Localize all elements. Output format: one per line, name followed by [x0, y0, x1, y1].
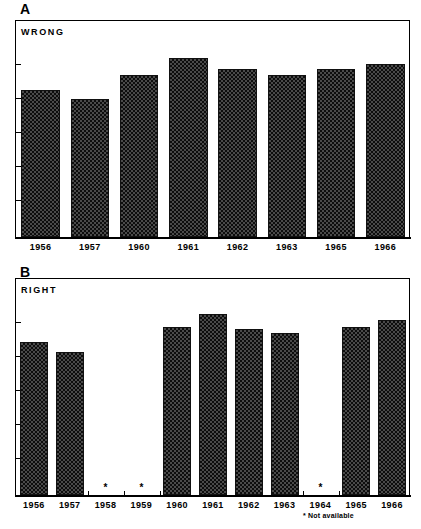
xlabel: 1962	[213, 242, 262, 252]
bar-slot	[164, 21, 213, 237]
bar-a-0	[21, 90, 59, 237]
bar-slot	[231, 279, 267, 495]
bar-slot	[52, 279, 88, 495]
xlabel: 1965	[312, 242, 361, 252]
star-cell	[267, 483, 303, 493]
bar-slot	[374, 279, 410, 495]
bar-slot	[338, 279, 374, 495]
xlabel: 1961	[164, 242, 213, 252]
xlabel: 1962	[231, 500, 267, 510]
panel-b: B RIGHT * * *	[0, 265, 421, 529]
bar-slot	[159, 279, 195, 495]
xlabel: 1960	[159, 500, 195, 510]
xlabel: 1957	[52, 500, 88, 510]
panel-a-xaxis-labels: 1956 1957 1960 1961 1962 1963 1965 1966	[16, 242, 410, 252]
bar-b-1	[56, 352, 84, 495]
bar-slot	[262, 21, 311, 237]
bar-b-9	[342, 327, 370, 495]
bar-b-0	[20, 342, 48, 495]
bar-slot	[123, 279, 159, 495]
bar-slot	[16, 21, 65, 237]
xlabel: 1963	[267, 500, 303, 510]
xlabel: 1960	[115, 242, 164, 252]
bar-slot	[88, 279, 124, 495]
bar-slot	[267, 279, 303, 495]
bar-slot	[115, 21, 164, 237]
bar-b-5	[199, 314, 227, 495]
xlabel: 1966	[361, 242, 410, 252]
panel-b-footnote: * Not available	[303, 512, 354, 519]
star-cell	[338, 483, 374, 493]
bar-b-10	[378, 320, 406, 495]
xlabel: 1958	[88, 500, 124, 510]
bar-slot	[213, 21, 262, 237]
bar-slot	[16, 279, 52, 495]
panel-b-missing-markers: * * *	[16, 483, 410, 493]
star-cell	[231, 483, 267, 493]
panel-b-baseline	[15, 495, 411, 497]
xlabel: 1966	[374, 500, 410, 510]
panel-b-xaxis-labels: 1956 1957 1958 1959 1960 1961 1962 1963 …	[16, 500, 410, 510]
xlabel: 1965	[338, 500, 374, 510]
panel-a-baseline	[15, 237, 411, 239]
bar-slot	[312, 21, 361, 237]
panel-a-letter: A	[20, 2, 30, 16]
panel-b-bars	[16, 279, 410, 495]
star-cell	[52, 483, 88, 493]
star-cell	[159, 483, 195, 493]
panel-b-letter: B	[20, 265, 30, 279]
xlabel: 1956	[16, 242, 65, 252]
panel-a-bars	[16, 21, 410, 237]
xlabel: 1957	[65, 242, 114, 252]
bar-slot	[303, 279, 339, 495]
xlabel: 1959	[123, 500, 159, 510]
bar-b-4	[163, 327, 191, 495]
star-marker-1964: *	[303, 483, 339, 493]
star-cell	[195, 483, 231, 493]
bar-a-4	[218, 69, 256, 237]
bar-a-2	[120, 75, 158, 237]
xlabel: 1961	[195, 500, 231, 510]
bar-slot	[195, 279, 231, 495]
star-marker-1958: *	[88, 483, 124, 493]
xlabel: 1956	[16, 500, 52, 510]
panel-a: A WRONG 1956 1957 1960 1961 1962 1963 19…	[0, 0, 421, 265]
star-cell	[16, 483, 52, 493]
bar-b-6	[235, 329, 263, 495]
star-marker-1959: *	[123, 483, 159, 493]
xlabel: 1963	[262, 242, 311, 252]
bar-a-6	[317, 69, 355, 237]
bar-b-7	[271, 333, 299, 495]
bar-slot	[361, 21, 410, 237]
xlabel: 1964	[303, 500, 339, 510]
bar-a-3	[169, 58, 207, 237]
bar-slot	[65, 21, 114, 237]
bar-a-7	[366, 64, 404, 237]
bar-a-1	[71, 99, 109, 237]
star-cell	[374, 483, 410, 493]
bar-a-5	[268, 75, 306, 237]
